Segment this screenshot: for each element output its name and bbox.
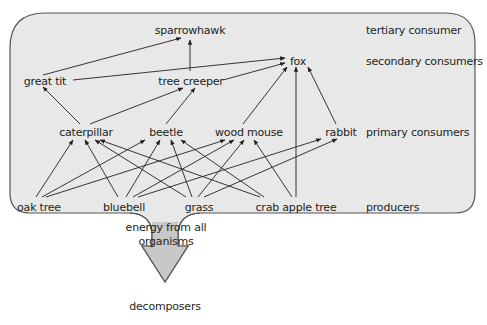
node-great-tit: great tit (24, 75, 66, 88)
energy-label-line1: energy from all (126, 221, 207, 234)
level-secondary: secondary consumers (366, 55, 483, 68)
node-oak-tree: oak tree (17, 201, 61, 214)
node-tree-creeper: tree creeper (158, 75, 223, 88)
ecosystem-panel (10, 13, 475, 282)
food-web-diagram: sparrowhawk fox great tit tree creeper c… (0, 0, 487, 325)
node-wood-mouse: wood mouse (215, 126, 283, 139)
node-grass: grass (185, 201, 214, 214)
node-decomposers: decomposers (129, 300, 201, 313)
level-tertiary: tertiary consumer (366, 24, 461, 37)
node-beetle: beetle (149, 126, 182, 139)
node-sparrowhawk: sparrowhawk (155, 24, 226, 37)
energy-label-line2: organisms (138, 235, 193, 248)
node-rabbit: rabbit (325, 126, 356, 139)
food-web-graphic (0, 0, 487, 325)
level-primary: primary consumers (366, 126, 469, 139)
level-producers: producers (366, 201, 419, 214)
node-caterpillar: caterpillar (59, 126, 113, 139)
node-bluebell: bluebell (103, 201, 145, 214)
node-crab-apple-tree: crab apple tree (256, 201, 337, 214)
node-fox: fox (290, 55, 306, 68)
